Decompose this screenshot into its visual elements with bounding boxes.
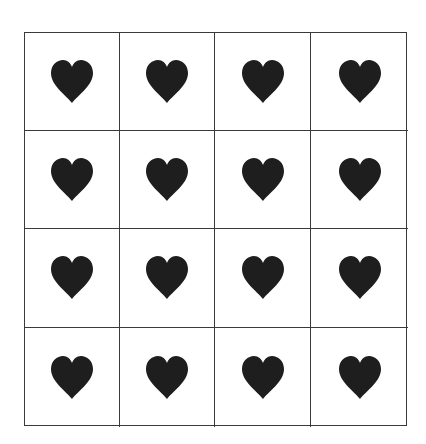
grid-cell (311, 328, 408, 427)
heart-icon (144, 255, 190, 301)
heart-icon (49, 355, 95, 401)
grid-cell (215, 229, 311, 328)
grid-cell (311, 131, 408, 229)
grid-cell (120, 131, 215, 229)
heart-icon (337, 355, 383, 401)
grid-cell (25, 33, 120, 131)
heart-icon (49, 255, 95, 301)
heart-icon (144, 157, 190, 203)
heart-icon (240, 157, 286, 203)
heart-icon (337, 255, 383, 301)
grid-cell (120, 328, 215, 427)
heart-icon (49, 157, 95, 203)
grid-cell (215, 33, 311, 131)
grid-cell (215, 131, 311, 229)
grid-cell (25, 229, 120, 328)
grid-cell (215, 328, 311, 427)
grid-cell (311, 33, 408, 131)
heart-icon (144, 59, 190, 105)
heart-grid (24, 32, 407, 426)
heart-icon (49, 59, 95, 105)
heart-icon (144, 355, 190, 401)
grid-cell (120, 33, 215, 131)
grid-cell (25, 328, 120, 427)
heart-icon (240, 59, 286, 105)
heart-icon (240, 255, 286, 301)
grid-cell (25, 131, 120, 229)
heart-icon (240, 355, 286, 401)
heart-icon (337, 157, 383, 203)
grid-cell (120, 229, 215, 328)
grid-cell (311, 229, 408, 328)
heart-icon (337, 59, 383, 105)
